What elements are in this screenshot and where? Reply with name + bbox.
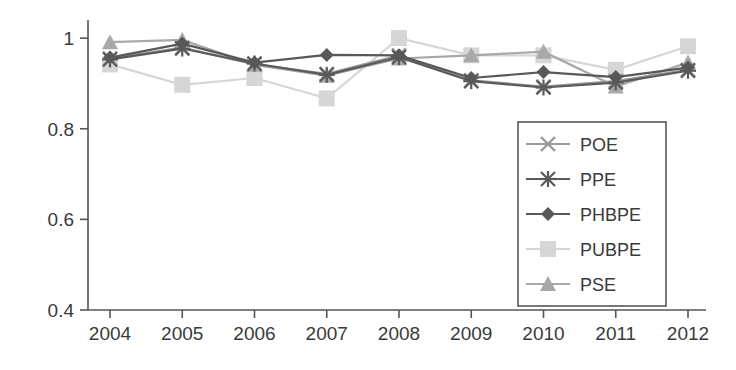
series-pubpe <box>102 30 696 106</box>
x-axis-tick-label: 2004 <box>89 323 132 344</box>
data-point-marker-square <box>247 70 263 86</box>
x-axis-tick-label: 2011 <box>595 323 636 344</box>
legend-item-pubpe[interactable]: PUBPE <box>526 240 641 260</box>
data-point-marker-square <box>540 241 556 257</box>
data-point-marker-diamond <box>537 65 551 79</box>
y-axis-tick-label: 1 <box>63 28 74 49</box>
legend-item-label: PUBPE <box>580 240 641 260</box>
chart-container: 10.80.60.4200420052006200720082009201020… <box>0 0 736 370</box>
data-point-marker-diamond <box>464 71 478 85</box>
data-point-marker-square <box>680 38 696 54</box>
y-axis-tick-label: 0.4 <box>48 300 75 321</box>
x-axis-tick-label: 2008 <box>378 323 420 344</box>
x-axis-tick-label: 2012 <box>667 323 709 344</box>
data-point-marker-asterisk <box>536 80 552 96</box>
legend: POEPPEPHBPEPUBPEPSE <box>518 122 666 306</box>
data-point-marker-asterisk <box>540 171 556 187</box>
data-point-marker-asterisk <box>319 67 335 83</box>
y-axis-tick-label: 0.8 <box>48 119 74 140</box>
legend-item-label: PPE <box>580 170 616 190</box>
x-axis-tick-label: 2010 <box>522 323 564 344</box>
data-point-marker-diamond <box>320 48 334 62</box>
x-axis-tick-label: 2005 <box>161 323 203 344</box>
x-axis-tick-label: 2009 <box>450 323 492 344</box>
y-axis-tick-label: 0.6 <box>48 209 74 230</box>
x-axis-tick-label: 2007 <box>306 323 348 344</box>
data-point-marker-square <box>319 90 335 106</box>
x-axis-tick-label: 2006 <box>233 323 275 344</box>
line-chart: 10.80.60.4200420052006200720082009201020… <box>0 0 736 370</box>
legend-item-label: PHBPE <box>580 205 641 225</box>
legend-item-label: POE <box>580 135 618 155</box>
legend-item-label: PSE <box>580 275 616 295</box>
data-point-marker-square <box>391 30 407 46</box>
data-point-marker-square <box>174 77 190 93</box>
